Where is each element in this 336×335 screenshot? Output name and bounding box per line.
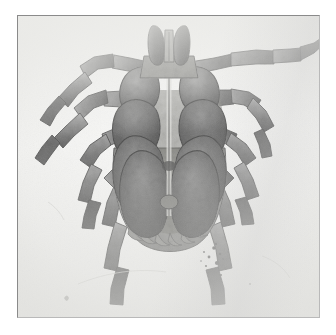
image-canvas: Tick [0, 0, 336, 335]
photographic-plate [17, 15, 320, 318]
tick-specimen-image [18, 16, 319, 317]
film-grain-overlay [18, 16, 319, 317]
